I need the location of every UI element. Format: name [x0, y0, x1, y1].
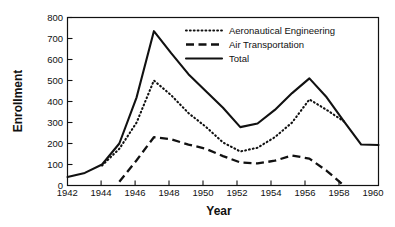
legend-label-total: Total: [229, 53, 249, 64]
chart-figure: 800 700 600 500 400 300 200 100 0 1942 1…: [0, 0, 395, 227]
y-tick-label: 400: [47, 96, 63, 107]
x-axis-title: Year: [206, 204, 232, 218]
y-tick-label: 500: [47, 75, 63, 86]
x-tick-label: 1954: [260, 187, 281, 198]
legend-label-aeronautical-engineering: Aeronautical Engineering: [229, 25, 335, 36]
y-tick-label: 300: [47, 117, 63, 128]
enrollment-line-chart: 800 700 600 500 400 300 200 100 0 1942 1…: [0, 0, 395, 227]
y-tick-label: 600: [47, 54, 63, 65]
x-tick-label: 1948: [158, 187, 179, 198]
y-tick-label: 700: [47, 33, 63, 44]
x-tick-label: 1946: [125, 187, 146, 198]
x-tick-label: 1952: [226, 187, 247, 198]
x-tick-label: 1956: [294, 187, 315, 198]
x-tick-label: 1958: [328, 187, 349, 198]
x-tick-label: 1942: [57, 187, 78, 198]
y-tick-label: 200: [47, 138, 63, 149]
legend-label-air-transportation: Air Transportation: [229, 39, 304, 50]
x-tick-label: 1960: [362, 187, 383, 198]
x-tick-label: 1950: [192, 187, 213, 198]
x-tick-label: 1944: [91, 187, 112, 198]
y-tick-label: 100: [47, 159, 63, 170]
y-tick-label: 800: [47, 12, 63, 23]
y-axis-title: Enrollment: [11, 70, 25, 133]
y-axis-tick-labels: 800 700 600 500 400 300 200 100 0: [47, 12, 63, 191]
